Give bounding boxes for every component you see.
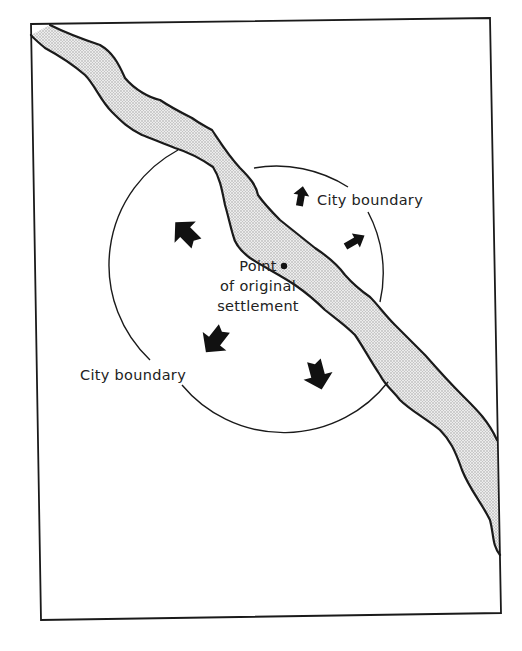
map-frame <box>31 18 501 620</box>
growth-arrow-southwest-icon <box>194 319 236 361</box>
settlement-label-line-3: settlement <box>193 296 323 316</box>
growth-arrow-north-icon <box>292 185 311 207</box>
settlement-label-line-2: of original <box>193 276 323 296</box>
urban-growth-diagram <box>0 0 522 651</box>
original-settlement-label: Point of original settlement <box>193 256 323 316</box>
city-boundary-label-northeast: City boundary <box>317 192 423 209</box>
growth-arrow-northeast-icon <box>341 229 368 254</box>
growth-arrow-south-icon <box>299 357 336 394</box>
settlement-label-line-1: Point <box>193 256 323 276</box>
city-boundary-label-southwest: City boundary <box>80 367 186 384</box>
growth-arrow-northwest-icon <box>165 212 207 254</box>
